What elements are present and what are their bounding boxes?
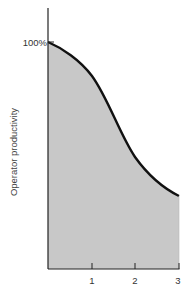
x-tick-label-3: 3 — [175, 275, 180, 286]
x-tick-label-1: 1 — [89, 275, 94, 286]
y-axis-title: Operator productivity — [8, 108, 19, 196]
area-fill — [48, 42, 179, 269]
productivity-chart: 1 2 3 100% Operator productivity — [0, 0, 190, 293]
y-max-label: 100% — [23, 37, 48, 48]
x-tick-label-2: 2 — [132, 275, 137, 286]
